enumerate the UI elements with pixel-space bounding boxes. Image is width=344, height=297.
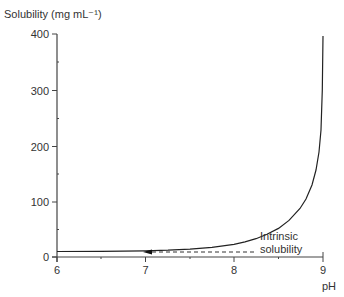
- annotation-solubility: solubility: [260, 243, 303, 255]
- x-tick-label-7: 7: [142, 264, 148, 276]
- y-tick-label-300: 300: [31, 85, 49, 97]
- y-tick-label-200: 200: [31, 141, 49, 153]
- x-tick-label-6: 6: [54, 264, 60, 276]
- solubility-chart: Solubility (mg mL⁻¹) 400 300 200 100 0 6…: [0, 0, 344, 297]
- x-tick-label-9: 9: [320, 264, 326, 276]
- x-axis-title: pH: [322, 280, 336, 292]
- annotation-intrinsic: Intrinsic: [260, 230, 298, 242]
- solubility-curve: [57, 36, 323, 252]
- y-ticks: [52, 34, 59, 257]
- y-tick-label-0: 0: [43, 251, 49, 263]
- x-tick-label-8: 8: [231, 264, 237, 276]
- y-tick-label-400: 400: [31, 28, 49, 40]
- y-axis-title: Solubility (mg mL⁻¹): [4, 8, 102, 20]
- y-tick-label-100: 100: [31, 196, 49, 208]
